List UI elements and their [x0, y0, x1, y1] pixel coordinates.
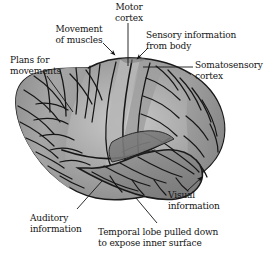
brain-diagram-figure: Motor cortex Movement of muscles Sensory… — [0, 0, 277, 254]
label-visual-information: Visual information — [168, 190, 234, 211]
label-movement-of-muscles: Movement of muscles — [48, 24, 110, 45]
label-auditory-information: Auditory information — [30, 213, 92, 234]
temporal-lobe-leader — [136, 198, 157, 223]
label-somatosensory-cortex: Somatosensory cortex — [195, 60, 275, 81]
label-temporal-lobe-note: Temporal lobe pulled down to expose inne… — [98, 227, 248, 248]
label-sensory-information-from-body: Sensory information from body — [146, 30, 238, 51]
label-plans-for-movements: Plans for movements — [10, 55, 72, 76]
cerebrum-group — [16, 58, 225, 200]
label-motor-cortex: Motor cortex — [99, 2, 159, 23]
